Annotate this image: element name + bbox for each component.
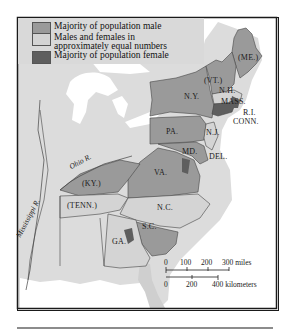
swatch-female	[32, 51, 51, 64]
state-label-nc: N.C.	[157, 203, 173, 212]
legend-label-male: Majority of population male	[54, 22, 161, 31]
state-label-md: MD.	[182, 147, 198, 156]
state-label-nj: N.J.	[206, 128, 220, 137]
bottom-rule	[17, 327, 273, 329]
map-legend: Majority of population male Males and fe…	[18, 18, 204, 64]
state-label-conn: CONN.	[233, 117, 259, 126]
scale-miles-300: 300 miles	[222, 258, 251, 267]
legend-label-equal: Males and females in approximately equal…	[54, 33, 167, 50]
scale-miles-100: 100	[180, 258, 191, 267]
state-label-tenn: (TENN.)	[67, 201, 97, 210]
legend-item-female: Majority of population female	[32, 51, 169, 64]
state-label-del: DEL.	[209, 152, 227, 161]
scale-km-0: 0	[164, 280, 168, 289]
state-label-ny: N.Y.	[184, 92, 199, 101]
scale-miles-200: 200	[201, 258, 212, 267]
scale-km-200: 200	[186, 280, 197, 289]
state-label-mass: MASS.	[221, 97, 246, 106]
state-label-ri: R.I.	[243, 108, 256, 117]
state-label-sc: S.C.	[142, 222, 157, 231]
state-label-ky: (KY.)	[82, 179, 101, 188]
scale-km-400: 400 kilometers	[212, 280, 257, 289]
legend-label-equal-line2: approximately equal numbers	[54, 41, 167, 51]
state-label-nh: N.H.	[219, 86, 235, 95]
legend-item-equal: Males and females in approximately equal…	[32, 33, 167, 50]
state-label-pa: PA.	[166, 127, 178, 136]
state-label-va: VA.	[154, 168, 167, 177]
state-label-ga: GA.	[112, 237, 126, 246]
state-label-vt: (VT.)	[204, 76, 222, 85]
legend-label-female: Majority of population female	[54, 51, 169, 60]
state-label-me: (ME.)	[238, 53, 258, 62]
swatch-equal	[32, 33, 51, 46]
scale-miles-0: 0	[164, 258, 168, 267]
